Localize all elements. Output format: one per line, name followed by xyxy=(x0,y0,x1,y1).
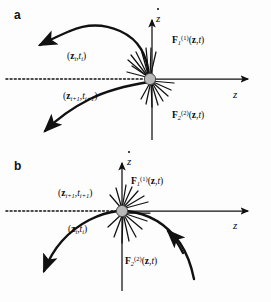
impact-node-b xyxy=(116,205,127,216)
panel-a: a xyxy=(0,0,271,151)
force-label-lower-b: F2(2)(z,t) xyxy=(125,256,157,267)
trajectory-right-b xyxy=(126,211,194,279)
state-label-lower-b: (zi,ti) xyxy=(68,225,87,235)
panel-b: b xyxy=(0,151,271,302)
impact-node-a xyxy=(144,73,155,84)
y-axis-label-a: z xyxy=(156,12,160,24)
force-label-upper-b: F1(1)(z,t) xyxy=(131,176,163,187)
trajectory-left-b xyxy=(44,211,118,271)
y-axis-label-b: z xyxy=(127,155,131,167)
panel-b-graphics xyxy=(0,151,271,302)
state-label-lower-a: (zi+1,ti+1) xyxy=(63,92,97,102)
x-axis-label-a: z xyxy=(233,88,237,100)
trajectory-upper-a-tail xyxy=(40,31,70,45)
state-label-upper-a: (zi,ti) xyxy=(67,52,86,62)
panel-a-graphics xyxy=(0,0,271,151)
x-axis-label-b: z xyxy=(233,219,237,231)
force-label-lower-a: F2(2)(z,t) xyxy=(172,110,204,121)
trajectory-lower-a xyxy=(45,82,149,131)
figure-root: a xyxy=(0,0,271,302)
force-label-upper-a: F1(1)(z,t) xyxy=(172,35,204,46)
state-label-upper-b: (zi+1,ti+1) xyxy=(58,189,92,199)
